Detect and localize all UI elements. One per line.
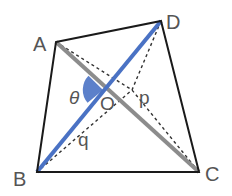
vertex-label-b: B: [13, 168, 26, 190]
quadrilateral-diagram: A D B C O θ p q: [0, 0, 232, 196]
segment-label-p: p: [139, 87, 150, 108]
segment-label-q: q: [78, 129, 89, 150]
intersection-label-o: O: [100, 93, 115, 114]
vertex-label-d: D: [166, 11, 180, 33]
vertex-label-a: A: [33, 33, 47, 55]
vertex-label-c: C: [205, 163, 219, 185]
angle-label-theta: θ: [69, 87, 80, 108]
